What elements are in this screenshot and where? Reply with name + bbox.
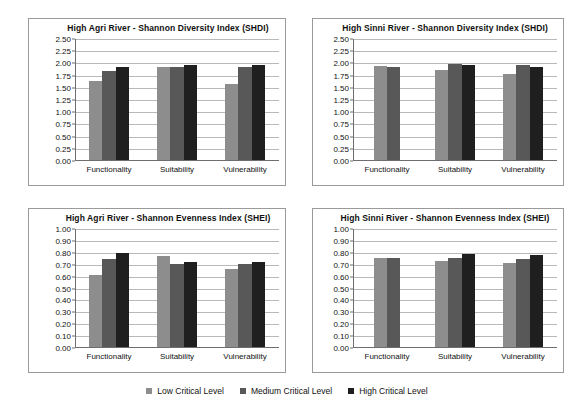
- x-axis-labels: FunctionalitySuitabilityVulnerability: [75, 348, 279, 370]
- bar-med: [448, 64, 461, 161]
- bar-med: [448, 258, 461, 348]
- bar-low: [374, 258, 387, 348]
- bar-med: [170, 67, 183, 161]
- x-axis-category-label: Functionality: [87, 352, 132, 361]
- y-axis-tick-label: 1.25: [323, 96, 349, 105]
- legend-swatch-high: [348, 388, 354, 394]
- bar-low: [435, 70, 448, 161]
- bars-layer: [75, 229, 279, 348]
- bar-med: [387, 67, 400, 161]
- bars-layer: [353, 39, 557, 161]
- bar-med: [170, 264, 183, 348]
- y-axis-tick-label: 0.40: [323, 296, 349, 305]
- bar-high: [252, 65, 265, 161]
- bar-low: [225, 84, 238, 161]
- y-axis-tick-label: 0.75: [323, 120, 349, 129]
- y-axis-tick-label: 0.90: [323, 236, 349, 245]
- y-axis-tick-label: 0.70: [323, 260, 349, 269]
- x-axis-labels: FunctionalitySuitabilityVulnerability: [353, 161, 557, 183]
- legend-item: High Critical Level: [348, 386, 428, 396]
- y-axis-tick-label: 0.25: [45, 144, 71, 153]
- x-axis-category-label: Vulnerability: [223, 352, 266, 361]
- legend-label: High Critical Level: [359, 386, 428, 396]
- bar-high: [530, 67, 543, 161]
- charts-grid: High Agri River - Shannon Diversity Inde…: [0, 0, 574, 375]
- y-axis-tick-label: 0.00: [45, 344, 71, 353]
- y-axis-tick-label: 0.00: [323, 157, 349, 166]
- y-axis-tick-label: 1.00: [45, 225, 71, 234]
- chart-panel-agri-shdi: High Agri River - Shannon Diversity Inde…: [28, 18, 286, 186]
- bar-high: [184, 262, 197, 348]
- bar-high: [530, 255, 543, 348]
- y-axis-tick-label: 0.50: [45, 132, 71, 141]
- bar-low: [89, 275, 102, 348]
- y-axis-tick-label: 0.10: [45, 332, 71, 341]
- y-axis-tick-label: 0.40: [45, 296, 71, 305]
- y-axis-tick-label: 0.80: [45, 248, 71, 257]
- bar-low: [435, 261, 448, 348]
- y-axis-tick-label: 1.75: [45, 71, 71, 80]
- y-axis-tick-label: 0.30: [323, 308, 349, 317]
- plot-area: 0.000.100.200.300.400.500.600.700.800.90…: [353, 229, 557, 348]
- y-axis-tick-label: 0.70: [45, 260, 71, 269]
- x-axis-category-label: Suitability: [438, 352, 472, 361]
- x-axis-labels: FunctionalitySuitabilityVulnerability: [75, 161, 279, 183]
- chart-panel-sinni-shei: High Sinni River - Shannon Evenness Inde…: [312, 208, 564, 373]
- plot-area: 0.000.250.500.751.001.251.501.752.002.25…: [75, 39, 279, 161]
- y-axis-line: [75, 39, 76, 161]
- chart-title: High Sinni River - Shannon Diversity Ind…: [313, 23, 563, 33]
- x-axis-category-label: Functionality: [365, 165, 410, 174]
- x-axis-labels: FunctionalitySuitabilityVulnerability: [353, 348, 557, 370]
- bar-low: [157, 256, 170, 348]
- x-axis-category-label: Functionality: [365, 352, 410, 361]
- y-axis-tick-label: 0.20: [323, 320, 349, 329]
- x-axis-category-label: Suitability: [160, 352, 194, 361]
- chart-title: High Agri River - Shannon Diversity Inde…: [29, 23, 285, 33]
- legend-item: Medium Critical Level: [240, 386, 332, 396]
- bar-low: [503, 263, 516, 348]
- bar-med: [238, 67, 251, 161]
- x-axis-category-label: Vulnerability: [223, 165, 266, 174]
- legend-label: Low Critical Level: [157, 386, 224, 396]
- x-axis-category-label: Suitability: [438, 165, 472, 174]
- y-axis-tick-label: 2.25: [45, 47, 71, 56]
- y-axis-line: [75, 229, 76, 348]
- bar-med: [102, 71, 115, 161]
- bar-med: [387, 258, 400, 348]
- y-axis-tick-label: 2.00: [323, 59, 349, 68]
- y-axis-tick-label: 2.00: [45, 59, 71, 68]
- chart-panel-agri-shei: High Agri River - Shannon Evenness Index…: [28, 208, 286, 373]
- y-axis-tick-label: 1.25: [45, 96, 71, 105]
- y-axis-tick-label: 1.50: [323, 83, 349, 92]
- bar-low: [225, 269, 238, 348]
- y-axis-tick-label: 0.25: [323, 144, 349, 153]
- bar-high: [184, 65, 197, 161]
- y-axis-tick-label: 0.50: [45, 284, 71, 293]
- bar-high: [252, 262, 265, 348]
- y-axis-tick-label: 0.10: [323, 332, 349, 341]
- x-axis-category-label: Suitability: [160, 165, 194, 174]
- bar-med: [102, 259, 115, 348]
- y-axis-tick-label: 1.50: [45, 83, 71, 92]
- chart-title: High Agri River - Shannon Evenness Index…: [29, 213, 285, 223]
- y-axis-tick-label: 1.00: [323, 225, 349, 234]
- plot-area: 0.000.100.200.300.400.500.600.700.800.90…: [75, 229, 279, 348]
- figure-multi-panel-bar-charts: High Agri River - Shannon Diversity Inde…: [0, 0, 574, 407]
- bar-low: [374, 66, 387, 161]
- bar-high: [462, 254, 475, 348]
- y-axis-tick-label: 1.00: [45, 108, 71, 117]
- chart-title: High Sinni River - Shannon Evenness Inde…: [313, 213, 563, 223]
- y-axis-tick-label: 0.90: [45, 236, 71, 245]
- y-axis-tick-label: 0.50: [323, 284, 349, 293]
- y-axis-tick-label: 0.00: [45, 157, 71, 166]
- y-axis-line: [353, 39, 354, 161]
- y-axis-tick-label: 0.80: [323, 248, 349, 257]
- chart-panel-sinni-shdi: High Sinni River - Shannon Diversity Ind…: [312, 18, 564, 186]
- bar-low: [503, 74, 516, 161]
- bar-low: [157, 67, 170, 161]
- bar-med: [516, 65, 529, 161]
- x-axis-category-label: Vulnerability: [501, 352, 544, 361]
- legend-swatch-low: [146, 388, 152, 394]
- y-axis-tick-label: 2.25: [323, 47, 349, 56]
- bar-high: [116, 253, 129, 348]
